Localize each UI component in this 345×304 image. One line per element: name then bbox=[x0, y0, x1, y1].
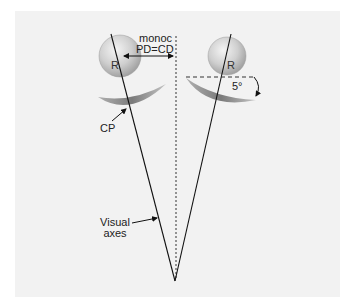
pd-cd-label: PD=CD bbox=[136, 44, 174, 55]
right-crescent-lens bbox=[186, 78, 256, 102]
visual-axes-label-line2: axes bbox=[99, 228, 131, 239]
left-visual-axis bbox=[111, 34, 175, 281]
visual-axes-label: Visual axes bbox=[99, 217, 131, 239]
left-crescent-lens bbox=[98, 84, 166, 105]
right-visual-axis bbox=[175, 34, 231, 281]
visual-axes-pointer-arrow bbox=[132, 218, 157, 223]
tilt-angle-label: 5° bbox=[232, 81, 243, 92]
left-eye-label: R bbox=[111, 60, 119, 71]
right-eye-label: R bbox=[227, 60, 235, 71]
cp-label: CP bbox=[100, 123, 115, 134]
cp-pointer-arrow bbox=[112, 109, 126, 121]
tilt-angle-arrow bbox=[254, 77, 259, 96]
